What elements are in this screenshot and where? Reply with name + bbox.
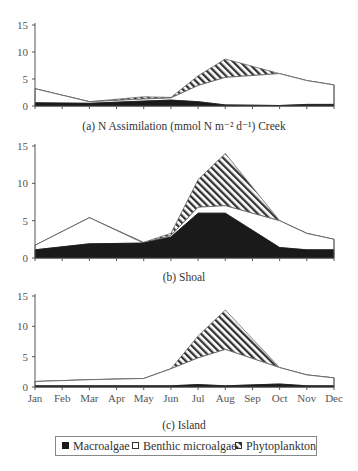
- x-tick-label: Jan: [28, 392, 43, 404]
- y-tick-label: 0: [23, 100, 29, 112]
- legend-label-benthic-microalgae: Benthic microalgae: [143, 439, 237, 453]
- y-tick-label: 10: [17, 177, 29, 189]
- y-tick-label: 15: [17, 140, 29, 152]
- y-tick-label: 5: [23, 215, 29, 227]
- x-tick-label: Feb: [54, 392, 71, 404]
- x-tick-label: Aug: [216, 392, 235, 404]
- phytoplankton-swatch-icon: [236, 443, 242, 449]
- x-tick-label: Dec: [325, 392, 343, 404]
- y-tick-label: 10: [17, 320, 29, 332]
- x-tick-label: Oct: [272, 392, 288, 404]
- panel-island: 051015JanFebMarAprMayJunJulAugSepOctNovD…: [17, 290, 343, 432]
- x-tick-label: Nov: [297, 392, 316, 404]
- y-tick-label: 15: [17, 19, 29, 31]
- x-tick-label: Jul: [192, 392, 205, 404]
- panel-creek: 051015(a) N Assimilation (mmol N m⁻² d⁻¹…: [17, 19, 334, 133]
- x-tick-label: Apr: [108, 392, 125, 404]
- y-tick-label: 5: [23, 351, 29, 363]
- y-tick-label: 5: [23, 73, 29, 85]
- benthic-swatch-icon: [133, 443, 139, 449]
- macroalgae-swatch-icon: [62, 442, 69, 449]
- legend-label-phytoplankton: Phytoplankton: [246, 439, 316, 453]
- figure: 051015(a) N Assimilation (mmol N m⁻² d⁻¹…: [0, 0, 358, 471]
- panel-caption: (c) Island: [162, 419, 206, 432]
- legend: Macroalgae Benthic microalgae Phytoplank…: [56, 437, 317, 456]
- y-tick-label: 0: [23, 252, 29, 264]
- panel-shoal: 051015(b) Shoal: [17, 140, 334, 284]
- y-tick-label: 15: [17, 290, 29, 302]
- x-tick-label: Sep: [244, 392, 261, 404]
- panel-caption: (b) Shoal: [163, 271, 205, 284]
- x-tick-label: Jun: [163, 392, 179, 404]
- panel-caption: (a) N Assimilation (mmol N m⁻² d⁻¹) Cree…: [82, 120, 286, 133]
- y-tick-label: 10: [17, 46, 29, 58]
- x-tick-label: Mar: [80, 392, 99, 404]
- legend-label-macroalgae: Macroalgae: [73, 439, 130, 453]
- x-tick-label: May: [134, 392, 155, 404]
